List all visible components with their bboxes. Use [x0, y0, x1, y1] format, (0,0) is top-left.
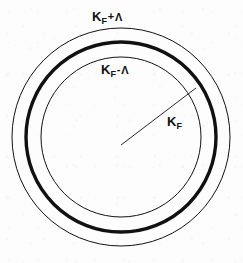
inner-shell-circle [41, 57, 201, 217]
label-inner-lambda: Λ [121, 64, 129, 76]
label-kf-minus-lambda: KF-Λ [101, 61, 129, 79]
label-outer-base: K [92, 9, 102, 24]
label-kf: KF [167, 113, 182, 131]
label-radius-base: K [167, 114, 177, 129]
fermi-radius-line [121, 88, 196, 145]
label-inner-base: K [101, 62, 111, 77]
figure-canvas [0, 0, 243, 263]
label-kf-plus-lambda: KF+Λ [92, 8, 122, 26]
label-radius-subscript: F [177, 121, 183, 131]
fermi-surface-figure: KF+Λ KF-Λ KF [0, 0, 243, 263]
label-outer-lambda: Λ [115, 11, 123, 23]
label-outer-operator: + [107, 10, 115, 22]
